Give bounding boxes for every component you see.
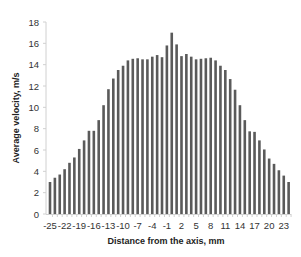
y-tick-label: 10: [28, 102, 39, 113]
y-axis-title: Average velocity, m/s: [11, 72, 21, 163]
x-tick-label: 2: [179, 220, 184, 231]
bar: [175, 44, 178, 214]
y-tick-label: 0: [34, 209, 39, 220]
y-tick-label: 4: [34, 166, 39, 177]
bar: [239, 105, 242, 214]
bar: [214, 60, 217, 214]
x-tick-label: -4: [148, 220, 156, 231]
bar: [127, 60, 130, 214]
bar: [287, 182, 290, 214]
bar: [49, 182, 52, 214]
bar: [263, 149, 266, 214]
bar-chart: 024681012141618 -25-22-19-16-13-10-7-4-1…: [0, 0, 301, 257]
y-tick-label: 14: [28, 59, 39, 70]
bar: [229, 79, 232, 214]
bar: [93, 131, 96, 214]
bar: [180, 56, 183, 214]
bar: [63, 169, 66, 214]
bar: [107, 89, 110, 214]
x-tick-label: 14: [235, 220, 246, 231]
y-tick-label: 8: [34, 123, 39, 134]
x-tick-label: 20: [264, 220, 275, 231]
bar: [200, 59, 203, 214]
y-tick-label: 16: [28, 38, 39, 49]
bar: [58, 175, 61, 214]
bar: [54, 178, 57, 214]
bar: [268, 159, 271, 214]
bar: [234, 90, 237, 214]
bar: [205, 58, 208, 214]
bar: [78, 149, 81, 214]
x-tick-label: -7: [133, 220, 141, 231]
bar: [258, 140, 261, 214]
x-tick-label: -22: [58, 220, 72, 231]
bars: [49, 33, 290, 214]
bar: [190, 57, 193, 214]
bar: [131, 59, 134, 214]
bar: [185, 54, 188, 214]
x-tick-label: 5: [193, 220, 198, 231]
bar: [161, 57, 164, 214]
bar: [195, 59, 198, 214]
bar: [146, 59, 149, 214]
x-tick-label: 17: [249, 220, 260, 231]
bar: [83, 140, 86, 214]
bar: [282, 176, 285, 214]
bar: [219, 66, 222, 214]
bar: [278, 170, 281, 214]
x-tick-label: -13: [102, 220, 116, 231]
bar: [88, 131, 91, 214]
x-tick-label: 23: [278, 220, 289, 231]
bar: [97, 120, 100, 214]
bar: [273, 164, 276, 214]
bar: [112, 79, 115, 214]
bar: [224, 70, 227, 214]
x-axis-ticks: -25-22-19-16-13-10-7-4-12581114172023: [43, 214, 291, 231]
y-tick-label: 18: [28, 17, 39, 28]
bar: [122, 66, 125, 214]
bar: [156, 55, 159, 214]
x-tick-label: 8: [208, 220, 213, 231]
bar: [170, 33, 173, 214]
x-tick-label: -1: [163, 220, 171, 231]
y-axis-ticks: 024681012141618: [28, 17, 46, 220]
bar: [151, 57, 154, 214]
x-tick-label: 11: [220, 220, 230, 231]
bar: [136, 58, 139, 214]
bar: [117, 70, 120, 214]
y-tick-label: 2: [34, 187, 39, 198]
x-tick-label: -16: [87, 220, 101, 231]
x-tick-label: -19: [72, 220, 86, 231]
y-tick-label: 6: [34, 145, 39, 156]
x-tick-label: -10: [116, 220, 130, 231]
bar: [166, 45, 169, 214]
bar: [244, 120, 247, 214]
bar: [68, 163, 71, 214]
bar: [248, 131, 251, 214]
bar: [73, 157, 76, 214]
bar: [253, 132, 256, 214]
x-axis-title: Distance from the axis, mm: [107, 236, 224, 246]
bar: [102, 105, 105, 214]
bar: [141, 59, 144, 214]
x-tick-label: -25: [43, 220, 57, 231]
bar: [209, 58, 212, 214]
y-tick-label: 12: [28, 81, 39, 92]
